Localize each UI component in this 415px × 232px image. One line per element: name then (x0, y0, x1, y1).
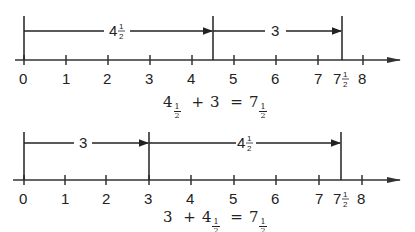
frac-num: 1 (119, 22, 124, 31)
segment-label-2: 4 (237, 134, 245, 151)
svg-text:2: 2 (343, 200, 348, 209)
bottom-number-line: 3 4 1 2 0 1 2 3 4 5 6 7 7 1 2 8 (13, 132, 400, 209)
svg-text:5: 5 (229, 190, 237, 207)
svg-text:4: 4 (187, 70, 195, 87)
svg-text:3: 3 (145, 70, 153, 87)
segment-label-1: 3 (79, 134, 87, 151)
svg-text:7: 7 (333, 70, 341, 87)
svg-text:0: 0 (19, 70, 27, 87)
svg-text:2: 2 (247, 144, 252, 153)
svg-text:7: 7 (314, 70, 322, 87)
svg-text:2: 2 (343, 80, 348, 89)
svg-text:1: 1 (247, 134, 252, 143)
svg-text:1: 1 (61, 190, 69, 207)
svg-text:8: 8 (358, 70, 366, 87)
equation-bottom: 3 +412 =712 (163, 208, 267, 232)
frac-den: 2 (119, 32, 124, 41)
svg-text:7: 7 (333, 190, 341, 207)
svg-text:2: 2 (103, 70, 111, 87)
svg-text:1: 1 (343, 190, 348, 199)
tick-labels: 0 1 2 3 4 5 6 7 7 1 2 8 (19, 190, 365, 209)
tick-labels: 0 1 2 3 4 5 6 7 7 1 2 8 (19, 70, 366, 89)
svg-text:5: 5 (229, 70, 237, 87)
top-number-line: 4 1 2 3 0 1 2 3 4 5 6 7 7 1 2 8 (15, 16, 400, 89)
segment-label-2: 3 (271, 22, 279, 39)
svg-text:0: 0 (19, 190, 27, 207)
svg-text:8: 8 (357, 190, 365, 207)
svg-text:6: 6 (271, 190, 279, 207)
svg-text:3: 3 (144, 190, 152, 207)
svg-text:1: 1 (62, 70, 70, 87)
svg-text:4: 4 (186, 190, 194, 207)
segment-label-1: 4 (109, 22, 117, 39)
svg-text:1: 1 (343, 70, 348, 79)
svg-text:6: 6 (271, 70, 279, 87)
svg-text:2: 2 (102, 190, 110, 207)
svg-text:7: 7 (315, 190, 323, 207)
equation-top: 412 +3 =712 (163, 93, 267, 120)
